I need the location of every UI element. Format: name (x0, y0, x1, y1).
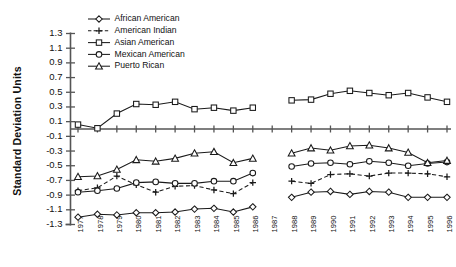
data-point-marker (133, 210, 139, 216)
data-point-marker (366, 188, 372, 194)
y-axis-tick-label: 0.7 (49, 71, 62, 82)
x-axis-tick-label: 1986 (251, 216, 260, 233)
data-point-marker (96, 28, 102, 34)
standard-deviation-units-line-chart: 1.31.10.90.70.50.30.1-0.1-0.3-0.5-0.7-0.… (0, 0, 456, 267)
data-point-marker (114, 186, 120, 192)
x-axis-tick-label: 1984 (212, 216, 221, 233)
series-line (78, 102, 253, 128)
data-point-marker (308, 189, 314, 195)
legend-label: African American (115, 13, 180, 23)
data-point-marker (425, 95, 430, 100)
data-point-marker (405, 170, 411, 176)
data-point-marker (153, 102, 158, 107)
x-axis-tick-label: 1995 (426, 216, 435, 233)
legend-label: Puerto Rican (115, 60, 165, 70)
data-point-marker (288, 178, 294, 184)
data-point-marker (211, 187, 217, 193)
data-point-marker (211, 105, 216, 110)
data-point-marker (75, 189, 81, 195)
y-axis-tick-label: 0.9 (49, 56, 62, 67)
legend-label: Asian American (115, 37, 175, 47)
data-point-marker (444, 99, 449, 104)
y-axis-tick-label: 1.1 (49, 42, 62, 53)
legend-item-asian-american[interactable]: Asian American (88, 37, 174, 47)
data-point-marker (288, 194, 294, 200)
data-point-marker (172, 209, 178, 215)
data-point-marker (405, 194, 411, 200)
x-axis-tick-label: 1987 (270, 216, 279, 233)
data-point-marker (347, 171, 353, 177)
data-point-marker (152, 210, 158, 216)
data-point-marker (367, 90, 372, 95)
data-point-marker (211, 178, 217, 184)
y-axis-tick-label: -0.9 (46, 189, 62, 200)
legend: African AmericanAmerican IndianAsian Ame… (88, 13, 185, 70)
data-point-marker (424, 171, 430, 177)
series-puerto-rican (75, 142, 451, 180)
y-axis-tick-label: -1.3 (46, 218, 62, 229)
x-axis-tick-label: 1996 (445, 216, 454, 233)
data-point-marker (96, 52, 102, 58)
y-axis-tick-label: -0.1 (46, 130, 62, 141)
y-axis-tick-label: -1.1 (46, 203, 62, 214)
data-point-marker (133, 180, 139, 186)
data-point-marker (405, 163, 411, 169)
x-axis-tick-label: 1978 (96, 216, 105, 233)
data-point-marker (327, 188, 333, 194)
data-point-marker (289, 164, 295, 170)
legend-item-african-american[interactable]: African American (88, 13, 180, 23)
data-point-marker (250, 204, 256, 210)
data-point-marker (134, 101, 139, 106)
data-point-marker (172, 181, 178, 187)
y-axis-tick-label: 0.5 (49, 86, 62, 97)
data-point-marker (308, 180, 314, 186)
x-axis-tick-label: 1992 (368, 216, 377, 233)
data-point-marker (192, 181, 198, 187)
legend-label: Mexican American (115, 49, 185, 59)
data-point-marker (95, 126, 100, 131)
data-point-marker (96, 16, 102, 22)
data-point-marker (152, 189, 158, 195)
data-point-marker (386, 170, 392, 176)
data-point-marker (231, 108, 236, 113)
data-point-marker (367, 159, 373, 165)
y-axis-title: Standard Deviation Units (11, 66, 23, 196)
data-point-marker (405, 90, 410, 95)
legend-item-puerto-rican[interactable]: Puerto Rican (88, 60, 164, 70)
data-point-marker (347, 88, 352, 93)
y-axis-tick-label: -0.3 (46, 145, 62, 156)
series-line (78, 173, 253, 192)
data-point-marker (114, 173, 120, 179)
data-point-marker (347, 191, 353, 197)
data-point-marker (308, 97, 313, 102)
legend-item-american-indian[interactable]: American Indian (88, 25, 177, 35)
legend-item-mexican-american[interactable]: Mexican American (88, 49, 185, 59)
data-point-marker (386, 93, 391, 98)
x-axis-tick-label: 1983 (193, 216, 202, 233)
data-point-marker (230, 190, 236, 196)
data-point-marker (231, 178, 237, 184)
x-axis-tick-label: 1982 (173, 216, 182, 233)
chart-canvas: 1.31.10.90.70.50.30.1-0.1-0.3-0.5-0.7-0.… (0, 0, 456, 267)
x-axis-tick-label: 1991 (348, 216, 357, 233)
y-axis-tick-label: -0.5 (46, 159, 62, 170)
data-point-marker (211, 205, 217, 211)
x-axis-tick-label: 1994 (406, 216, 415, 233)
x-axis-tick-labels: 1977197819791980198119821983198419851986… (76, 216, 454, 233)
data-point-marker (153, 179, 159, 185)
data-point-marker (172, 99, 177, 104)
series-line (78, 176, 253, 194)
series-american-indian (75, 170, 450, 197)
x-axis-tick-label: 1993 (387, 216, 396, 233)
data-point-marker (191, 206, 197, 212)
data-point-marker (444, 174, 450, 180)
data-point-marker (75, 122, 80, 127)
x-axis-tick-label: 1980 (134, 216, 143, 233)
data-point-marker (308, 161, 314, 167)
y-axis-tick-label: -0.7 (46, 174, 62, 185)
x-axis-tick-label: 1981 (154, 216, 163, 233)
data-point-marker (230, 209, 236, 215)
series-african-american (75, 188, 450, 220)
data-point-marker (366, 173, 372, 179)
data-point-marker (386, 160, 392, 166)
